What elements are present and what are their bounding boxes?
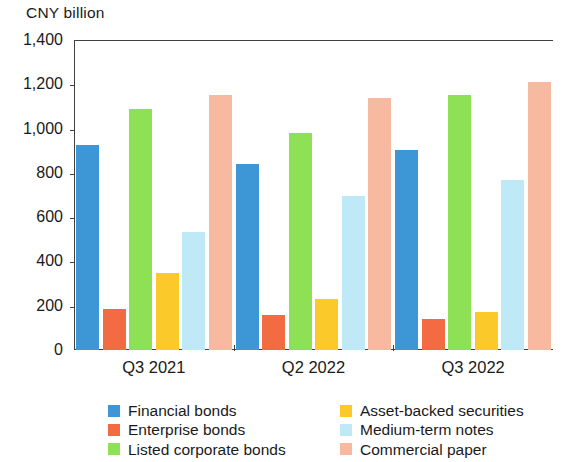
bar <box>209 95 232 350</box>
legend-item-label: Asset-backed securities <box>360 403 524 419</box>
bar <box>262 315 285 350</box>
legend-item: Medium-term notes <box>340 420 524 439</box>
bar-groups <box>74 40 553 350</box>
y-axis-tick-label: 200 <box>36 298 63 314</box>
bar <box>156 273 179 351</box>
legend-item-label: Commercial paper <box>360 442 487 458</box>
x-axis-tick-label: Q2 2022 <box>282 358 345 377</box>
chart-legend: Financial bondsEnterprise bondsListed co… <box>108 401 548 459</box>
bar <box>129 109 152 350</box>
legend-swatch-icon <box>108 424 120 436</box>
legend-item-label: Financial bonds <box>128 403 237 419</box>
bar-chart: CNY billion 1,4001,2001,0008006004002000… <box>0 0 567 462</box>
y-axis-tick-label: 1,200 <box>23 76 63 92</box>
bar-group <box>393 40 553 350</box>
bar <box>528 82 551 350</box>
legend-item-label: Medium-term notes <box>360 422 494 438</box>
legend-item: Listed corporate bonds <box>108 440 286 459</box>
legend-item: Financial bonds <box>108 401 286 420</box>
y-axis-tick-label: 600 <box>36 209 63 225</box>
bar <box>395 150 418 350</box>
bar <box>448 95 471 350</box>
bar-group <box>74 40 234 350</box>
legend-item: Commercial paper <box>340 440 524 459</box>
y-axis-labels: 1,4001,2001,0008006004002000 <box>0 0 74 462</box>
bar-group <box>234 40 394 350</box>
y-axis-tick-label: 0 <box>54 342 63 358</box>
bar <box>103 309 126 350</box>
bar <box>368 98 391 350</box>
x-axis-labels: Q3 2021Q2 2022Q3 2022 <box>74 358 553 388</box>
legend-item: Asset-backed securities <box>340 401 524 420</box>
legend-swatch-icon <box>340 443 352 455</box>
bar <box>289 133 312 350</box>
legend-column-left: Financial bondsEnterprise bondsListed co… <box>108 401 286 459</box>
bar <box>475 312 498 350</box>
legend-swatch-icon <box>340 424 352 436</box>
x-axis-tick-label: Q3 2022 <box>442 358 505 377</box>
legend-item-label: Enterprise bonds <box>128 422 245 438</box>
legend-item-label: Listed corporate bonds <box>128 442 286 458</box>
legend-column-right: Asset-backed securitiesMedium-term notes… <box>340 401 524 459</box>
bar <box>182 232 205 350</box>
legend-item: Enterprise bonds <box>108 420 286 439</box>
legend-swatch-icon <box>108 405 120 417</box>
y-axis-tick-label: 1,000 <box>23 121 63 137</box>
legend-swatch-icon <box>340 405 352 417</box>
y-axis-tick-label: 400 <box>36 253 63 269</box>
bar <box>342 196 365 350</box>
bar <box>501 180 524 351</box>
bar <box>236 164 259 350</box>
legend-swatch-icon <box>108 443 120 455</box>
y-axis-tick-label: 1,400 <box>23 32 63 48</box>
bar <box>422 319 445 350</box>
bar <box>315 299 338 350</box>
y-axis-tick-label: 800 <box>36 165 63 181</box>
x-axis-tick-label: Q3 2021 <box>122 358 185 377</box>
bar <box>76 145 99 350</box>
